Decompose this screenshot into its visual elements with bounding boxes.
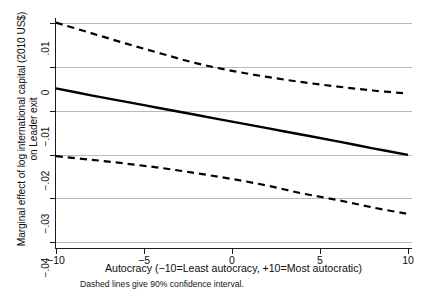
y-axis-ticks	[50, 24, 56, 243]
marginal-effect-chart: Marginal effect of log international cap…	[0, 0, 427, 296]
series-lower-confidence-bound	[56, 156, 408, 214]
series-marginal-effect	[56, 88, 408, 155]
chart-footnote: Dashed lines give 90% confidence interva…	[80, 279, 244, 289]
plot-area	[0, 0, 427, 296]
gridlines-horizontal	[56, 24, 412, 243]
series-upper-confidence-bound	[56, 23, 408, 94]
x-axis-title: Autocracy (−10=Least autocracy, +10=Most…	[46, 262, 421, 274]
